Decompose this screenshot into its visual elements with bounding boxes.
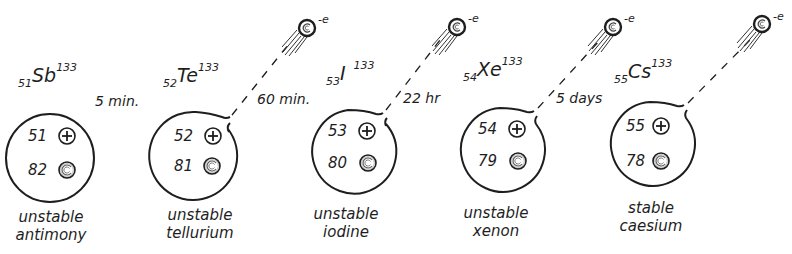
nucleus-outline bbox=[461, 108, 545, 192]
half-life-4: 5 days bbox=[556, 90, 602, 106]
half-life-1: 5 min. bbox=[95, 93, 139, 109]
electron-label: -e bbox=[318, 13, 329, 26]
neutron-count: 78 bbox=[626, 152, 645, 170]
proton-count: 55 bbox=[626, 117, 645, 135]
isotope-label-xe: 54Xe133 bbox=[463, 58, 523, 80]
neutron-icon bbox=[653, 153, 669, 169]
neutron-count: 81 bbox=[174, 157, 193, 175]
atom-antimony bbox=[6, 114, 94, 202]
isotope-label-cs: 55Cs133 bbox=[614, 60, 672, 82]
atom-name-iodine: unstableiodine bbox=[305, 205, 387, 241]
neutron-count: 80 bbox=[328, 154, 347, 172]
neutron-count: 79 bbox=[478, 152, 497, 170]
proton-count: 54 bbox=[478, 120, 497, 138]
nucleus-outline bbox=[6, 114, 94, 202]
neutron-count: 82 bbox=[28, 161, 47, 179]
nucleus-outline bbox=[611, 102, 695, 186]
isotope-label-sb: 51Sb133 bbox=[18, 64, 77, 86]
half-life-3: 22 hr bbox=[403, 90, 440, 106]
proton-icon bbox=[59, 128, 75, 144]
electron-label: -e bbox=[773, 10, 784, 23]
atom-name-xenon: unstablexenon bbox=[455, 204, 537, 240]
proton-count: 53 bbox=[328, 122, 347, 140]
proton-icon bbox=[653, 118, 669, 134]
proton-count: 51 bbox=[28, 127, 47, 145]
proton-count: 52 bbox=[174, 127, 193, 145]
electron-icon bbox=[432, 19, 465, 55]
electron-label: -e bbox=[624, 12, 635, 25]
neutron-icon bbox=[360, 155, 376, 171]
electron-icon bbox=[282, 20, 315, 56]
electron-icon bbox=[588, 19, 621, 55]
electron-label: -e bbox=[468, 12, 479, 25]
neutron-icon bbox=[204, 158, 220, 174]
nucleus-outline bbox=[149, 112, 237, 200]
half-life-2: 60 min. bbox=[257, 91, 310, 107]
neutron-icon bbox=[59, 162, 75, 178]
neutron-icon bbox=[510, 153, 526, 169]
atom-name-caesium: stablecaesium bbox=[610, 199, 692, 235]
proton-icon bbox=[509, 121, 525, 137]
isotope-label-te: 52Te133 bbox=[163, 64, 219, 86]
proton-icon bbox=[359, 123, 375, 139]
atom-name-tellurium: unstabletellurium bbox=[155, 206, 245, 242]
isotope-label-i: 53I133 bbox=[326, 62, 375, 84]
nucleus-outline bbox=[312, 110, 396, 194]
proton-icon bbox=[205, 128, 221, 144]
electron-icon bbox=[737, 16, 770, 52]
atom-name-antimony: unstableantimony bbox=[10, 208, 92, 244]
